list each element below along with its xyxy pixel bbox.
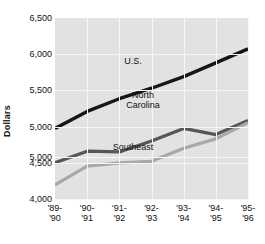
x-axis-tick-label-line2: '94 [167,213,201,223]
x-axis-tick-label-line2: '96 [231,213,265,223]
y-axis-tick-label: 6,500 [16,14,52,23]
x-axis-tick-labels: '89-'90'90-'91'91-'92'92-'93'93-'94'94-'… [55,203,248,231]
series-label-north-carolina: NorthCarolina [118,90,168,110]
y-axis-title: Dollars [0,86,14,156]
cropped-title-remnant [62,0,202,7]
x-axis-tick-label: '93-'94 [167,203,201,223]
gridline-vertical [184,18,185,199]
gridline-vertical [87,18,88,199]
x-axis-tick-label-line1: '92- [144,203,159,213]
x-axis-tick-label-line1: '94- [208,203,223,213]
y-axis-tick-label: 4,500 [16,158,52,167]
x-axis-tick-label-line2: '93 [135,213,169,223]
gridline-vertical [248,18,249,199]
x-axis-tick-label-line2: '90 [38,213,72,223]
x-axis-tick-label-line1: '93- [176,203,191,213]
gridline-vertical [216,18,217,199]
series-label-us: U.S. [116,56,150,66]
y-axis-tick-labels: 6,5006,0005,5005,0005,0004,5004,000 [16,18,52,199]
x-axis-tick-label-line2: '95 [199,213,233,223]
y-axis-tick-label: 6,000 [16,50,52,59]
y-axis-tick-label: 5,000 [16,122,52,131]
x-axis-tick-label: '95-'96 [231,203,265,223]
x-axis-tick-label-line1: '91- [112,203,127,213]
line-chart: Dollars 6,5006,0005,5005,0005,0004,5004,… [0,0,265,244]
x-axis-tick-label-line2: '92 [102,213,136,223]
x-axis-tick-label-line1: '89- [48,203,63,213]
x-axis-tick-label: '89-'90 [38,203,72,223]
y-axis-tick-label: 5,500 [16,86,52,95]
series-label-north-carolina-line2: Carolina [126,100,160,110]
x-axis-tick-label-line2: '91 [70,213,104,223]
series-label-north-carolina-line1: North [132,90,154,100]
x-axis-tick-label: '92-'93 [135,203,169,223]
x-axis-tick-label: '91-'92 [102,203,136,223]
x-axis-tick-label: '90-'91 [70,203,104,223]
x-axis-tick-label-line1: '95- [241,203,256,213]
x-axis-tick-label: '94-'95 [199,203,233,223]
x-axis-tick-label-line1: '90- [80,203,95,213]
series-label-southeast: Southeast [104,142,162,152]
gridline-horizontal [55,199,248,200]
